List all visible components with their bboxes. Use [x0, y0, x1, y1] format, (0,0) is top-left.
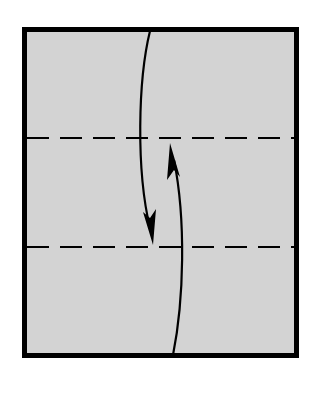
origami-fold-diagram	[0, 0, 313, 394]
paper-sheet	[25, 30, 297, 356]
